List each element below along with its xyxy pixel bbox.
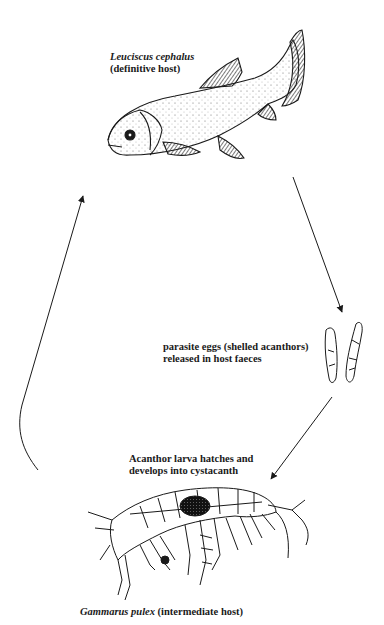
definitive-host-species: Leuciscus cephalus xyxy=(110,51,194,62)
fish-icon xyxy=(108,30,305,159)
larva-label: Acanthor larva hatches and develops into… xyxy=(129,453,253,477)
arrow-eggs-to-amphipod xyxy=(271,397,332,479)
amphipod-icon xyxy=(88,488,308,600)
larva-label-line1: Acanthor larva hatches and xyxy=(129,453,253,465)
definitive-host-role: (definitive host) xyxy=(110,63,194,75)
parasite-egg-icon xyxy=(325,322,362,382)
intermediate-host-label: Gammarus pulex (intermediate host) xyxy=(80,606,243,618)
arrow-fish-to-eggs xyxy=(293,177,342,312)
definitive-host-label: Leuciscus cephalus (definitive host) xyxy=(110,51,194,75)
diagram-canvas xyxy=(0,0,384,625)
eggs-label-line1: parasite eggs (shelled acanthors) xyxy=(163,341,309,353)
eggs-label: parasite eggs (shelled acanthors) releas… xyxy=(163,341,309,365)
intermediate-host-role: (intermediate host) xyxy=(158,606,243,617)
intermediate-host-species: Gammarus pulex xyxy=(80,606,155,617)
arrow-amphipod-to-fish xyxy=(20,196,83,470)
larva-label-line2: develops into cystacanth xyxy=(129,465,253,477)
eggs-label-line2: released in host faeces xyxy=(163,353,309,365)
